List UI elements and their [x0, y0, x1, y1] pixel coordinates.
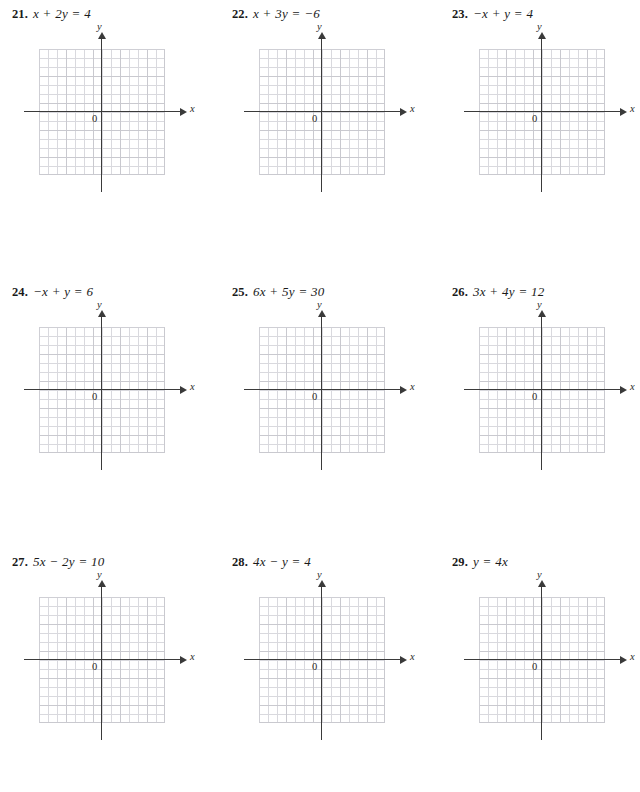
problem-23: 23.−x + y = 4xy0: [440, 4, 640, 201]
problem-label: 25.6x + 5y = 30: [220, 282, 431, 302]
x-axis-line: [24, 659, 182, 660]
x-axis-line: [24, 111, 182, 112]
y-axis-line: [321, 582, 322, 740]
problem-equation: x + 3y = −6: [253, 6, 320, 21]
problem-number: 22.: [232, 7, 248, 21]
x-axis-arrow-icon: [620, 386, 627, 394]
problem-22: 22.x + 3y = −6xy0: [220, 4, 431, 201]
x-axis-label: x: [190, 103, 195, 114]
problem-24: 24.−x + y = 6xy0: [0, 282, 211, 479]
origin-label: 0: [92, 113, 97, 124]
origin-label: 0: [532, 661, 537, 672]
x-axis-arrow-icon: [400, 386, 407, 394]
x-axis-arrow-icon: [400, 656, 407, 664]
problem-number: 28.: [232, 555, 248, 569]
y-axis-line: [321, 34, 322, 192]
y-axis-label: y: [317, 569, 322, 580]
x-axis-line: [464, 111, 622, 112]
coordinate-graph[interactable]: xy0: [440, 304, 640, 479]
y-axis-label: y: [97, 299, 102, 310]
problem-equation: 6x + 5y = 30: [253, 284, 325, 299]
problem-equation: −x + y = 6: [33, 284, 93, 299]
y-axis-line: [321, 312, 322, 470]
x-axis-label: x: [190, 381, 195, 392]
coordinate-graph[interactable]: xy0: [440, 26, 640, 201]
x-axis-arrow-icon: [400, 108, 407, 116]
problem-25: 25.6x + 5y = 30xy0: [220, 282, 431, 479]
y-axis-arrow-icon: [538, 310, 546, 317]
problem-equation: 3x + 4y = 12: [473, 284, 545, 299]
x-axis-line: [244, 389, 402, 390]
coordinate-graph[interactable]: xy0: [220, 304, 420, 479]
problem-number: 26.: [452, 285, 468, 299]
x-axis-line: [464, 389, 622, 390]
y-axis-arrow-icon: [318, 32, 326, 39]
y-axis-line: [541, 582, 542, 740]
y-axis-label: y: [537, 569, 542, 580]
x-axis-label: x: [410, 651, 415, 662]
y-axis-arrow-icon: [538, 580, 546, 587]
x-axis-line: [244, 111, 402, 112]
problem-label: 28.4x − y = 4: [220, 552, 431, 572]
x-axis-line: [244, 659, 402, 660]
y-axis-line: [101, 34, 102, 192]
y-axis-arrow-icon: [98, 32, 106, 39]
problem-label: 22.x + 3y = −6: [220, 4, 431, 24]
x-axis-line: [464, 659, 622, 660]
problem-number: 21.: [12, 7, 28, 21]
problem-number: 29.: [452, 555, 468, 569]
x-axis-label: x: [410, 103, 415, 114]
problem-label: 21.x + 2y = 4: [0, 4, 211, 24]
problem-26: 26.3x + 4y = 12xy0: [440, 282, 640, 479]
origin-label: 0: [312, 661, 317, 672]
y-axis-label: y: [97, 21, 102, 32]
x-axis-label: x: [630, 381, 635, 392]
y-axis-arrow-icon: [538, 32, 546, 39]
y-axis-arrow-icon: [318, 310, 326, 317]
x-axis-arrow-icon: [180, 108, 187, 116]
coordinate-graph[interactable]: xy0: [220, 26, 420, 201]
y-axis-label: y: [97, 569, 102, 580]
origin-label: 0: [92, 391, 97, 402]
x-axis-arrow-icon: [620, 656, 627, 664]
x-axis-label: x: [630, 651, 635, 662]
x-axis-arrow-icon: [180, 656, 187, 664]
problem-equation: 4x − y = 4: [253, 554, 311, 569]
problem-equation: x + 2y = 4: [33, 6, 91, 21]
problem-number: 27.: [12, 555, 28, 569]
y-axis-label: y: [537, 299, 542, 310]
coordinate-graph[interactable]: xy0: [220, 574, 420, 749]
y-axis-label: y: [317, 299, 322, 310]
problem-label: 27.5x − 2y = 10: [0, 552, 211, 572]
y-axis-arrow-icon: [98, 580, 106, 587]
coordinate-graph[interactable]: xy0: [0, 26, 200, 201]
x-axis-arrow-icon: [620, 108, 627, 116]
origin-label: 0: [532, 113, 537, 124]
origin-label: 0: [312, 391, 317, 402]
x-axis-line: [24, 389, 182, 390]
problem-29: 29.y = 4xxy0: [440, 552, 640, 749]
coordinate-graph[interactable]: xy0: [440, 574, 640, 749]
y-axis-line: [541, 34, 542, 192]
problem-equation: 5x − 2y = 10: [33, 554, 105, 569]
y-axis-label: y: [537, 21, 542, 32]
problem-28: 28.4x − y = 4xy0: [220, 552, 431, 749]
coordinate-graph[interactable]: xy0: [0, 304, 200, 479]
x-axis-arrow-icon: [180, 386, 187, 394]
x-axis-label: x: [410, 381, 415, 392]
problem-21: 21.x + 2y = 4xy0: [0, 4, 211, 201]
problem-equation: −x + y = 4: [473, 6, 533, 21]
origin-label: 0: [312, 113, 317, 124]
problem-27: 27.5x − 2y = 10xy0: [0, 552, 211, 749]
y-axis-line: [101, 582, 102, 740]
y-axis-line: [101, 312, 102, 470]
problem-number: 23.: [452, 7, 468, 21]
origin-label: 0: [532, 391, 537, 402]
problem-number: 25.: [232, 285, 248, 299]
y-axis-arrow-icon: [318, 580, 326, 587]
y-axis-label: y: [317, 21, 322, 32]
y-axis-arrow-icon: [98, 310, 106, 317]
x-axis-label: x: [190, 651, 195, 662]
coordinate-graph[interactable]: xy0: [0, 574, 200, 749]
